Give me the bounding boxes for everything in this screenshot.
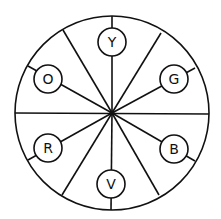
label-y: Y <box>107 34 117 50</box>
color-wheel-diagram: Y G B V R O <box>0 0 221 219</box>
label-g: G <box>169 71 180 87</box>
center-dot <box>110 111 115 116</box>
label-r: R <box>43 140 53 156</box>
label-b: B <box>169 141 179 157</box>
label-v: V <box>106 176 116 192</box>
label-o: O <box>42 71 53 87</box>
